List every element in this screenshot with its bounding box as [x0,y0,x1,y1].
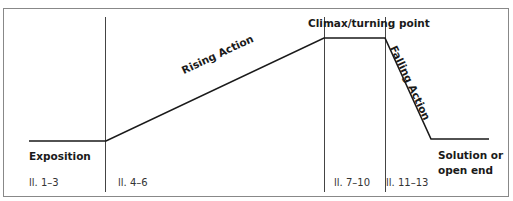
stage-label-exposition: Exposition [29,151,91,162]
stage-label-solution-line2: open end [438,165,493,176]
plot-structure-diagram: Exposition ll. 1–3 Rising Action ll. 4–6… [0,0,513,201]
stage-lines-rising-action: ll. 4–6 [118,178,148,188]
frame-border [4,9,509,197]
stage-label-solution-line1: Solution or [438,150,503,161]
stage-lines-falling-action: ll. 11–13 [386,178,428,188]
stage-lines-climax: ll. 7–10 [334,178,370,188]
diagram-canvas [0,0,513,201]
stage-lines-exposition: ll. 1–3 [29,178,59,188]
stage-label-climax: Climax/turning point [308,18,430,29]
